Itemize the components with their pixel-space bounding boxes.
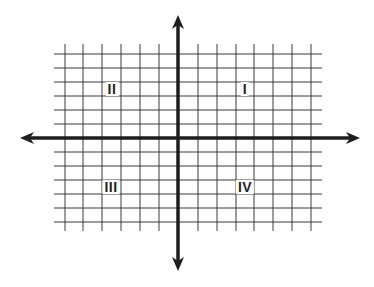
quadrant-1-label: I — [241, 82, 249, 96]
quadrant-3-label: III — [102, 180, 119, 194]
coordinate-plane-graphic — [0, 0, 374, 287]
axes — [20, 15, 360, 271]
quadrant-2-label: II — [106, 82, 119, 96]
coordinate-plane: II I III IV — [0, 0, 374, 287]
quadrant-4-label: IV — [236, 180, 254, 194]
